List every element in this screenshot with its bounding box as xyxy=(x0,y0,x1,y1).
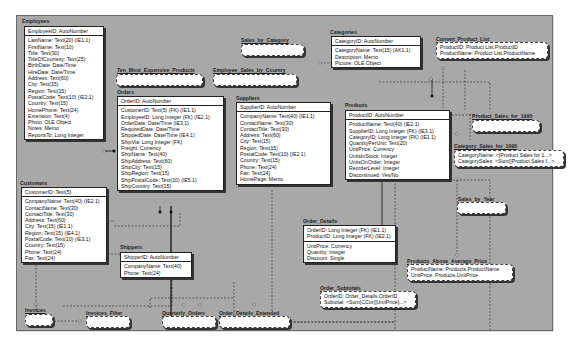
sales-by-category-title: Sales_by_Category xyxy=(241,37,289,43)
category-sales-1995-view[interactable]: CategoryName: <[Product Sales for 1...>C… xyxy=(454,150,564,167)
field-row: CategoryName: Text(15) (AK1.1) xyxy=(335,47,417,53)
order-subtotals-fields: OrderID: Order_Details.OrderIDSubtotal: … xyxy=(324,293,412,306)
current-product-list-fields: ProductID: Product List.ProductIDProduct… xyxy=(440,44,544,57)
products-fields: ProductName: Text(40) (IE2.1)SupplierID:… xyxy=(346,120,449,179)
field-row: Discontinued: Yes/No xyxy=(349,172,446,178)
field-row: HomePage: Memo xyxy=(240,176,327,182)
field-row: Discount: Single xyxy=(307,255,392,261)
order-details-pk: OrderID: Long Integer (FK) (IE1.1)Produc… xyxy=(304,226,395,242)
order-details-fields: UnitPrice: CurrencyQuantity: IntegerDisc… xyxy=(304,242,395,263)
field-row: Picture: OLE Object xyxy=(335,60,417,66)
order-details-title: Order_Details xyxy=(303,218,337,224)
field-row: ShipCountry: Text(15) xyxy=(121,183,220,189)
shippers-fields: CompanyName: Text(40)Phone: Text(24) xyxy=(121,262,191,277)
field-row: Phone: Text(24) xyxy=(124,270,188,276)
field-row: LastName: Text(20) (IE1.1) xyxy=(28,37,100,43)
employees-fields: LastName: Text(20) (IE1.1)FirstName: Tex… xyxy=(25,36,103,139)
suppliers-pk: SupplierID: AutoNumber xyxy=(237,103,330,112)
field-row: CompanyName: Text(40) xyxy=(124,263,188,269)
employees-title: Employees xyxy=(22,18,49,24)
employees-pk: EmployeeID: AutoNumber xyxy=(25,27,103,36)
field-row: CompanyName: Text(40) (IE2.1) xyxy=(25,198,103,204)
field-row: EmployeeID: Long Integer (FK) (IE2.1) xyxy=(121,114,220,120)
field-row: ProductID: Long Integer (FK) (IE2.1) xyxy=(307,233,392,239)
suppliers-title: Suppliers xyxy=(236,95,260,101)
categories-fields: CategoryName: Text(15) (AK1.1)Descriptio… xyxy=(332,46,420,67)
field-row: SupplierID: Long Integer (FK) (IE3.1) xyxy=(349,128,446,134)
shippers-pk: ShipperID: AutoNumber xyxy=(121,253,191,262)
field-row: CategorySales: <Sum([Product Sales f...> xyxy=(458,158,560,164)
products-above-avg-fields: ProductName: Products.ProductNameUnitPri… xyxy=(411,266,509,279)
order-details-table[interactable]: OrderID: Long Integer (FK) (IE1.1)Produc… xyxy=(303,225,396,263)
orders-fields: CustomerID: Text(5) (FK) (IE1.1)Employee… xyxy=(118,106,223,190)
customers-fields: CompanyName: Text(40) (IE2.1)ContactName… xyxy=(22,197,106,262)
orders-table[interactable]: OrderID: AutoNumber CustomerID: Text(5) … xyxy=(117,96,224,191)
employees-table[interactable]: EmployeeID: AutoNumber LastName: Text(20… xyxy=(24,26,104,140)
shippers-table[interactable]: ShipperID: AutoNumber CompanyName: Text(… xyxy=(120,252,192,278)
orders-title: Orders xyxy=(117,89,134,95)
products-table[interactable]: ProductID: AutoNumber ProductName: Text(… xyxy=(345,110,450,180)
category-sales-1995-fields: CategoryName: <[Product Sales for 1...>C… xyxy=(458,152,560,165)
current-product-list-view[interactable]: ProductID: Product List.ProductIDProduct… xyxy=(436,42,548,59)
invoices-filter-view[interactable] xyxy=(86,316,130,328)
customers-table[interactable]: CustomerID: Text(5) CompanyName: Text(40… xyxy=(21,187,107,263)
product-sales-1995-view[interactable] xyxy=(472,120,540,132)
sales-by-category-view[interactable] xyxy=(241,44,304,56)
employee-sales-view[interactable] xyxy=(213,74,297,86)
invoices-title: Invoices xyxy=(25,307,46,313)
orders-pk: OrderID: AutoNumber xyxy=(118,97,223,106)
products-pk: ProductID: AutoNumber xyxy=(346,111,449,120)
sales-by-year-view[interactable] xyxy=(457,202,506,214)
products-above-avg-view[interactable]: ProductName: Products.ProductNameUnitPri… xyxy=(407,264,513,281)
customers-title: Customers xyxy=(20,180,47,186)
field-row: Fax: Text(24) xyxy=(25,255,103,261)
category-sales-1995-title: Category_Sales_for_1995 xyxy=(454,143,517,149)
categories-title: Categories xyxy=(330,29,357,35)
order-details-extended-view[interactable] xyxy=(219,316,290,328)
suppliers-fields: CompanyName: Text(40) (IE1.1)ContactName… xyxy=(237,112,330,183)
quarterly-orders-view[interactable] xyxy=(162,316,216,328)
products-title: Products xyxy=(345,102,367,108)
customers-pk: CustomerID: Text(5) xyxy=(22,188,106,197)
field-row: ProductName: Product List.ProductName xyxy=(440,50,544,56)
shippers-title: Shippers xyxy=(120,244,142,250)
field-row: ReportsTo: Long Integer xyxy=(28,132,100,138)
field-row: Subtotal: <Sum(CCur([UnitPrice]...> xyxy=(324,299,412,305)
invoices-view[interactable] xyxy=(25,314,53,326)
ten-most-expensive-view[interactable] xyxy=(116,74,203,86)
field-row: UnitPrice: Products.UnitPrice xyxy=(411,272,509,278)
ten-most-expensive-title: Ten_Most_Expensive_Products xyxy=(117,67,195,73)
suppliers-table[interactable]: SupplierID: AutoNumber CompanyName: Text… xyxy=(236,102,331,185)
categories-table[interactable]: CategoryID: AutoNumber CategoryName: Tex… xyxy=(331,36,421,68)
product-sales-1995-title: Product_Sales_for_1995 xyxy=(472,113,532,119)
field-row: CompanyName: Text(40) (IE1.1) xyxy=(240,113,327,119)
employee-sales-title: Employee_Sales_by_Country xyxy=(213,67,286,73)
order-subtotals-view[interactable]: OrderID: Order_Details.OrderIDSubtotal: … xyxy=(320,291,416,308)
categories-pk: CategoryID: AutoNumber xyxy=(332,37,420,46)
